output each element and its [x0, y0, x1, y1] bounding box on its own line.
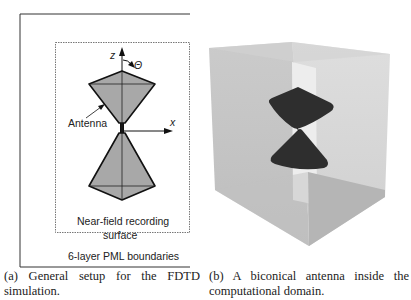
panel-b-biconical-3d: (b) A biconical antenna inside the compu… [205, 0, 411, 300]
z-axis-arrow-icon [119, 47, 125, 71]
computational-domain-3d [205, 0, 411, 270]
x-axis-label: x [170, 116, 175, 128]
caption-a: (a) General setup for the FDTD simulatio… [4, 269, 200, 299]
panel-a-fdtd-setup: z Θ x Antenna Near-field recording surfa… [0, 0, 205, 300]
caption-b: (b) A biconical antenna inside the compu… [209, 269, 409, 299]
antenna-label: Antenna [68, 117, 107, 129]
x-axis-arrow-icon [124, 128, 173, 134]
pml-boundaries-label: 6-layer PML boundaries [68, 250, 179, 262]
antenna-pointer-arrow-icon [86, 104, 105, 118]
near-field-label-line1: Near-field recording [77, 215, 169, 227]
theta-label: Θ [134, 59, 142, 71]
z-axis-label: z [110, 49, 115, 61]
near-field-label-line2: surface [103, 229, 137, 241]
